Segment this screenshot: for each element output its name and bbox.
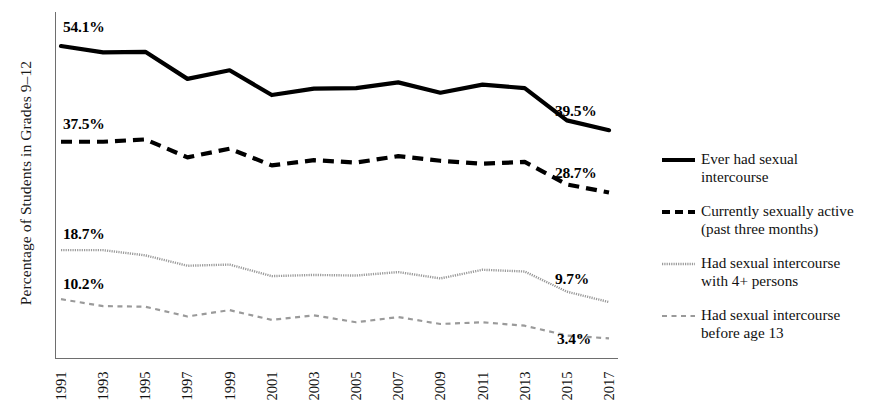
x-tick-label: 2013	[516, 372, 533, 401]
series-line-2	[61, 250, 609, 302]
start-value-label-2: 18.7%	[63, 225, 105, 243]
x-tick-label: 1999	[221, 372, 238, 401]
x-tick-label: 2017	[601, 372, 618, 401]
chart-legend: Ever had sexualintercourseCurrently sexu…	[662, 150, 886, 358]
x-tick-2007: 2007	[390, 360, 406, 418]
legend-label-line1: Had sexual intercourse	[701, 306, 840, 323]
legend-label-line2: with 4+ persons	[701, 272, 840, 290]
end-value-label-3: 3.4%	[557, 330, 591, 348]
start-value-label-0: 54.1%	[63, 18, 105, 36]
x-tick-1991: 1991	[53, 360, 69, 418]
plot-area	[55, 12, 617, 358]
legend-label-3: Had sexual intercoursebefore age 13	[701, 306, 840, 341]
legend-item-3[interactable]: Had sexual intercoursebefore age 13	[662, 306, 886, 341]
x-axis-tick-labels: 1991199319951997199920012003200520072009…	[55, 360, 618, 419]
series-line-0	[61, 46, 609, 130]
x-tick-2003: 2003	[306, 360, 322, 418]
x-tick-1997: 1997	[179, 360, 195, 418]
legend-item-2[interactable]: Had sexual intercoursewith 4+ persons	[662, 254, 886, 289]
x-tick-label: 2015	[558, 372, 575, 401]
dashed-thin-gray-line-icon	[662, 306, 696, 327]
x-tick-1995: 1995	[137, 360, 153, 418]
x-tick-label: 2007	[390, 372, 407, 401]
x-tick-2015: 2015	[559, 360, 575, 418]
x-tick-2009: 2009	[432, 360, 448, 418]
legend-label-line1: Ever had sexual	[701, 150, 798, 167]
x-tick-label: 2001	[263, 372, 280, 401]
series-line-3	[61, 299, 609, 338]
x-tick-label: 1991	[53, 372, 70, 401]
end-value-label-2: 9.7%	[555, 270, 589, 288]
x-tick-2017: 2017	[601, 360, 617, 418]
legend-item-1[interactable]: Currently sexually active(past three mon…	[662, 202, 886, 237]
legend-label-line2: intercourse	[701, 168, 798, 186]
legend-item-0[interactable]: Ever had sexualintercourse	[662, 150, 886, 185]
series-line-1	[61, 139, 609, 192]
chart-figure: Percentage of Students in Grades 9–12 54…	[0, 0, 889, 419]
x-tick-1993: 1993	[95, 360, 111, 418]
x-tick-2013: 2013	[517, 360, 533, 418]
legend-label-line2: (past three months)	[701, 220, 854, 238]
dashed-thick-black-line-icon	[662, 202, 696, 223]
legend-label-2: Had sexual intercoursewith 4+ persons	[701, 254, 840, 289]
x-tick-2011: 2011	[475, 360, 491, 418]
start-value-label-3: 10.2%	[63, 275, 105, 293]
x-tick-2005: 2005	[348, 360, 364, 418]
end-value-label-0: 39.5%	[555, 102, 597, 120]
legend-label-line1: Had sexual intercourse	[701, 254, 840, 271]
x-tick-1999: 1999	[222, 360, 238, 418]
y-axis-label: Percentage of Students in Grades 9–12	[17, 60, 35, 304]
x-tick-label: 2011	[474, 372, 491, 400]
y-axis-label-container: Percentage of Students in Grades 9–12	[0, 0, 52, 365]
x-tick-label: 2003	[305, 372, 322, 401]
x-tick-label: 2005	[348, 372, 365, 401]
legend-label-line1: Currently sexually active	[701, 202, 854, 219]
legend-label-line2: before age 13	[701, 324, 840, 342]
legend-label-0: Ever had sexualintercourse	[701, 150, 798, 185]
legend-label-1: Currently sexually active(past three mon…	[701, 202, 854, 237]
solid-thick-black-line-icon	[662, 150, 696, 171]
x-tick-label: 2009	[432, 372, 449, 401]
x-tick-2001: 2001	[264, 360, 280, 418]
x-tick-label: 1997	[179, 372, 196, 401]
dotted-thin-gray-line-icon	[662, 254, 696, 275]
end-value-label-1: 28.7%	[555, 164, 597, 182]
series-canvas	[55, 12, 617, 358]
x-tick-label: 1993	[95, 372, 112, 401]
x-tick-label: 1995	[137, 372, 154, 401]
start-value-label-1: 37.5%	[63, 115, 105, 133]
